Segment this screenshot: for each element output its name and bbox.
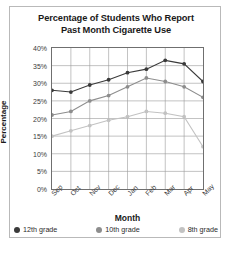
legend-label: 8th grade xyxy=(188,225,218,234)
chart-frame: Percentage of Students Who Report Past M… xyxy=(9,6,221,238)
legend-label: 10th grade xyxy=(105,225,139,234)
y-tick-label: 30% xyxy=(10,80,51,87)
legend-marker-icon xyxy=(179,227,185,233)
y-tick-label: 35% xyxy=(10,62,51,69)
y-tick-label: 10% xyxy=(10,150,51,157)
chart-svg xyxy=(52,48,203,189)
y-tick-label: 0% xyxy=(10,186,51,193)
x-axis-title: Month xyxy=(51,213,204,223)
legend-item[interactable]: 10th grade xyxy=(96,225,139,234)
y-tick-label: 40% xyxy=(10,45,51,52)
chart-title-line-2: Past Month Cigarette Use xyxy=(10,25,222,37)
legend-marker-icon xyxy=(96,227,102,233)
chart-legend: 12th grade10th grade8th grade xyxy=(14,225,218,234)
chart-title: Percentage of Students Who Report Past M… xyxy=(10,13,222,36)
y-tick-label: 25% xyxy=(10,97,51,104)
y-axis-title: Percentage xyxy=(0,100,8,143)
chart-title-line-1: Percentage of Students Who Report xyxy=(10,13,222,25)
plot-area xyxy=(51,47,204,190)
y-tick-label: 20% xyxy=(10,115,51,122)
legend-label: 12th grade xyxy=(23,225,57,234)
y-tick-label: 15% xyxy=(10,133,51,140)
y-tick-label: 5% xyxy=(10,168,51,175)
legend-marker-icon xyxy=(14,227,20,233)
legend-item[interactable]: 12th grade xyxy=(14,225,57,234)
legend-item[interactable]: 8th grade xyxy=(179,225,218,234)
